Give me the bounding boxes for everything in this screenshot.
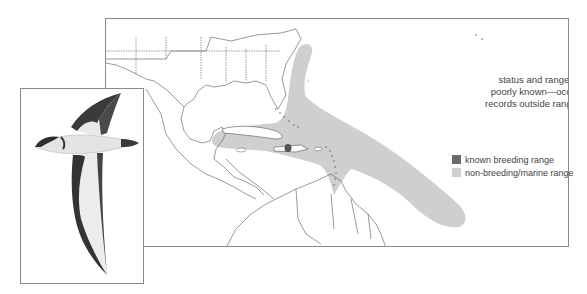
- legend-item-breeding: known breeding range: [452, 153, 574, 166]
- breeding-range-area: [285, 144, 292, 152]
- legend-label: known breeding range: [465, 155, 554, 165]
- note-line: records outside range shown: [461, 98, 569, 110]
- map-legend: known breeding range non-breeding/marine…: [452, 153, 574, 179]
- legend-item-nonbreeding: non-breeding/marine range: [452, 166, 574, 179]
- range-map: status and range limits poorly known—occ…: [105, 18, 569, 247]
- nonbreeding-swatch: [452, 168, 461, 177]
- bird-illustration-panel: [20, 88, 144, 284]
- legend-label: non-breeding/marine range: [465, 168, 574, 178]
- note-line: poorly known—occasional: [461, 86, 569, 98]
- breeding-swatch: [452, 155, 461, 164]
- petrel-illustration: [21, 89, 144, 284]
- range-status-note: status and range limits poorly known—occ…: [461, 74, 569, 110]
- note-line: status and range limits: [461, 74, 569, 86]
- map-graphic: [106, 19, 569, 247]
